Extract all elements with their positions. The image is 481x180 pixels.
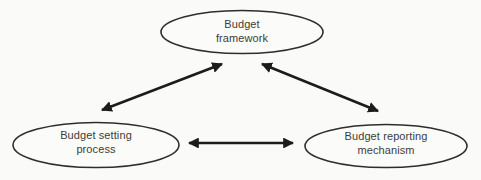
- node-ellipse-budget-reporting: [305, 125, 467, 168]
- node-ellipse-budget-framework: [161, 11, 323, 54]
- edge-framework-setting-arrow: [102, 64, 222, 110]
- diagram-canvas: Budget framework Budget setting process …: [0, 0, 481, 180]
- diagram-graphics: [0, 0, 481, 180]
- edge-framework-reporting-arrow: [262, 64, 378, 111]
- node-ellipse-budget-setting: [13, 123, 179, 168]
